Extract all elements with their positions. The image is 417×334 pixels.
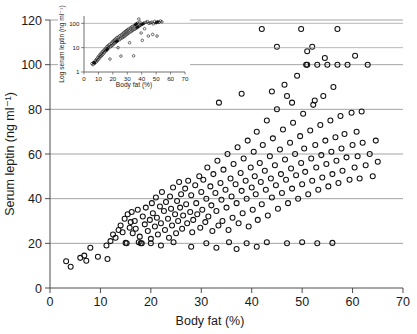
xtick-label-70: 70 (396, 295, 410, 309)
ytick-label-20: 20 (28, 237, 42, 251)
inset-xtick-label-0: 0 (82, 75, 86, 82)
inset-xtick-label-60: 60 (167, 75, 174, 82)
y-axis-title: Serum leptin (ng ml⁻¹) (3, 92, 17, 216)
inset-ytick-label-100: 100 (69, 20, 80, 27)
inset-xtick-label-10: 10 (95, 75, 102, 82)
y-axis-title-text: Serum leptin (ng ml⁻¹) (3, 92, 17, 216)
scatter-plot-svg: 020406080100120010203040506070 Body fat … (0, 0, 417, 334)
xtick-label-40: 40 (245, 295, 259, 309)
ytick-label-100: 100 (21, 58, 42, 72)
inset-ytick-label-1: 1 (76, 68, 80, 75)
xtick-label-0: 0 (47, 295, 54, 309)
ytick-label-40: 40 (28, 192, 42, 206)
inset-xtick-label-50: 50 (153, 75, 160, 82)
inset-y-axis-title-text: Log serum leptin (ng ml⁻¹) (58, 5, 66, 82)
inset-x-axis-title: Body fat (%) (116, 81, 152, 89)
ytick-label-80: 80 (28, 103, 42, 117)
x-axis-title: Body fat (%) (176, 314, 245, 328)
xtick-label-50: 50 (295, 295, 309, 309)
inset-ytick-label-10: 10 (73, 44, 80, 51)
ytick-label-120: 120 (21, 14, 42, 28)
inset-xtick-label-70: 70 (182, 75, 189, 82)
xtick-label-30: 30 (194, 295, 208, 309)
xtick-label-60: 60 (346, 295, 360, 309)
ytick-label-60: 60 (28, 148, 42, 162)
chart-figure: 020406080100120010203040506070 Body fat … (0, 0, 417, 334)
inset-y-axis-title: Log serum leptin (ng ml⁻¹) (58, 5, 66, 82)
xtick-label-10: 10 (93, 295, 107, 309)
inset-x-axis-title-text: Body fat (%) (116, 81, 152, 89)
ytick-label-0: 0 (35, 282, 42, 296)
x-axis-title-text: Body fat (%) (176, 314, 245, 328)
xtick-label-20: 20 (144, 295, 158, 309)
